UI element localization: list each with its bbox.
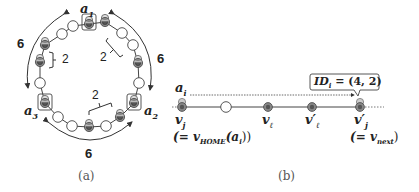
- agent-icon: [35, 54, 44, 66]
- note-home-a: (= v: [173, 130, 200, 144]
- ring-node-empty: [101, 121, 112, 132]
- figure-a-ring: [27, 14, 151, 140]
- ring-node-empty: [134, 78, 145, 89]
- node-vjp-sub: j: [365, 120, 368, 130]
- node-vl-sub: ℓ: [270, 120, 273, 130]
- ring-node-empty: [117, 28, 128, 39]
- label-ai: ai: [175, 80, 186, 98]
- note-next-end: ): [394, 130, 399, 144]
- line-node-vl: [264, 103, 273, 112]
- arc-distance-bottom: 6: [85, 146, 92, 161]
- label-a3-sub: 3: [32, 111, 38, 121]
- arc-distance-right: 6: [157, 51, 164, 66]
- ring-node-empty: [128, 40, 139, 51]
- caption-b: (b): [278, 169, 295, 183]
- agent-icon: [84, 119, 93, 131]
- id-label: IDi = (4, 2): [314, 75, 382, 90]
- node-vjp-main: v: [354, 112, 362, 127]
- note-home: (= vHOME(ai)): [173, 130, 251, 146]
- node-vl-main: v: [262, 112, 270, 127]
- agent-icon: [115, 109, 124, 121]
- label-a1-sub: 1: [88, 9, 94, 19]
- arc-a1-a3: [27, 14, 64, 88]
- gap-bracket: [89, 103, 112, 115]
- node-vj-main: v: [175, 112, 183, 127]
- line-node-vl-prime: [308, 103, 317, 112]
- label-a3: a3: [24, 103, 38, 121]
- note-home-b: (a: [226, 130, 239, 144]
- line-node-vj: [178, 98, 187, 111]
- note-home-sub: HOME: [200, 137, 226, 146]
- node-vlp-main: v: [305, 112, 313, 127]
- label-a2-sub: 2: [152, 111, 158, 121]
- note-home-end: )): [242, 130, 251, 144]
- ring-node-empty: [57, 29, 68, 40]
- label-a2: a2: [144, 103, 158, 121]
- ring-node-empty: [68, 21, 79, 32]
- caption-a: (a): [78, 169, 95, 183]
- node-label-vl: vℓ: [262, 112, 273, 130]
- node-label-vj: vj: [175, 112, 185, 130]
- node-label-vj-prime: v′j: [354, 112, 368, 130]
- agent-icon: [40, 37, 49, 49]
- note-next: (= vnext): [350, 130, 399, 146]
- agent-icon: [40, 95, 49, 107]
- label-ai-sub: i: [183, 88, 186, 98]
- node-label-vl-prime: v′ℓ: [305, 112, 319, 130]
- line-node-vj-prime: [356, 98, 365, 111]
- arc-a1-a2: [114, 14, 151, 90]
- id-label-value: = (4, 2): [331, 75, 381, 88]
- ring-node-empty: [53, 112, 64, 123]
- id-label-main: ID: [314, 75, 329, 88]
- gap-label-bottom: 2: [92, 88, 99, 102]
- ring-node-empty: [35, 78, 46, 89]
- label-a1: a1: [80, 1, 94, 19]
- arc-distance-left: 6: [17, 36, 24, 51]
- node-vj-sub: j: [183, 120, 186, 130]
- agent-icon: [133, 55, 142, 67]
- gap-label-right: 2: [100, 50, 107, 64]
- agent-icon: [129, 95, 138, 107]
- gap-bracket: [106, 38, 123, 57]
- node-vlp-sub: ℓ: [316, 120, 319, 130]
- gap-label-left: 2: [62, 52, 69, 66]
- gap-bracket: [49, 52, 56, 68]
- line-node-empty: [221, 102, 232, 113]
- figure-canvas: [0, 0, 419, 192]
- note-next-a: (= v: [350, 130, 377, 144]
- agent-icon: [100, 14, 109, 26]
- ring-node-empty: [67, 121, 78, 132]
- note-next-sub: next: [377, 137, 394, 146]
